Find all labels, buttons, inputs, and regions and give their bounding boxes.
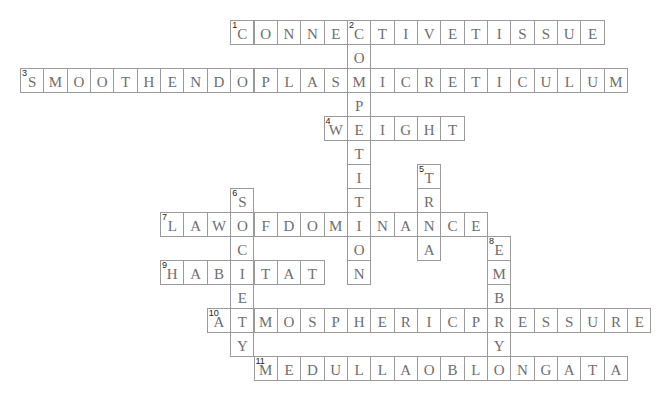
crossword-cell[interactable]: P	[324, 308, 348, 333]
crossword-cell[interactable]: 9H	[160, 260, 184, 285]
crossword-cell[interactable]: O	[347, 44, 371, 69]
crossword-cell[interactable]: 2C	[347, 20, 371, 45]
crossword-cell[interactable]: L	[557, 68, 581, 93]
crossword-cell[interactable]: A	[394, 356, 418, 381]
crossword-cell[interactable]: 3S	[20, 68, 44, 93]
crossword-cell[interactable]: 5T	[417, 164, 441, 189]
crossword-cell[interactable]: A	[277, 260, 301, 285]
crossword-cell[interactable]: E	[580, 20, 604, 45]
crossword-cell[interactable]: W	[207, 212, 231, 237]
crossword-cell[interactable]: V	[417, 20, 441, 45]
crossword-cell[interactable]: R	[417, 68, 441, 93]
crossword-cell[interactable]: B	[207, 260, 231, 285]
crossword-cell[interactable]: B	[487, 284, 511, 309]
crossword-cell[interactable]: 11M	[254, 356, 278, 381]
crossword-cell[interactable]: E	[324, 20, 348, 45]
crossword-cell[interactable]: N	[510, 356, 534, 381]
crossword-cell[interactable]: N	[277, 20, 301, 45]
crossword-cell[interactable]: P	[464, 308, 488, 333]
crossword-cell[interactable]: S	[534, 308, 558, 333]
crossword-cell[interactable]: I	[394, 20, 418, 45]
crossword-cell[interactable]: M	[43, 68, 67, 93]
crossword-cell[interactable]: N	[183, 68, 207, 93]
crossword-cell[interactable]: Y	[230, 332, 254, 357]
crossword-cell[interactable]: C	[394, 68, 418, 93]
crossword-cell[interactable]: O	[300, 212, 324, 237]
crossword-cell[interactable]: P	[254, 68, 278, 93]
crossword-cell[interactable]: T	[254, 260, 278, 285]
crossword-cell[interactable]: O	[230, 212, 254, 237]
crossword-cell[interactable]: A	[604, 356, 628, 381]
crossword-cell[interactable]: U	[534, 68, 558, 93]
crossword-cell[interactable]: N	[417, 212, 441, 237]
crossword-cell[interactable]: M	[347, 68, 371, 93]
crossword-cell[interactable]: I	[347, 212, 371, 237]
crossword-cell[interactable]: I	[487, 68, 511, 93]
crossword-cell[interactable]: T	[370, 20, 394, 45]
crossword-cell[interactable]: M	[604, 68, 628, 93]
crossword-cell[interactable]: N	[300, 20, 324, 45]
crossword-cell[interactable]: L	[370, 356, 394, 381]
crossword-cell[interactable]: U	[324, 356, 348, 381]
crossword-cell[interactable]: C	[510, 68, 534, 93]
crossword-cell[interactable]: T	[230, 308, 254, 333]
crossword-cell[interactable]: T	[464, 68, 488, 93]
crossword-cell[interactable]: U	[580, 308, 604, 333]
crossword-cell[interactable]: I	[347, 164, 371, 189]
crossword-cell[interactable]: I	[487, 20, 511, 45]
crossword-cell[interactable]: A	[183, 260, 207, 285]
crossword-cell[interactable]: T	[347, 188, 371, 213]
crossword-cell[interactable]: D	[207, 68, 231, 93]
crossword-cell[interactable]: S	[510, 20, 534, 45]
crossword-cell[interactable]: 6S	[230, 188, 254, 213]
crossword-cell[interactable]: O	[347, 236, 371, 261]
crossword-cell[interactable]: T	[580, 356, 604, 381]
crossword-cell[interactable]: S	[534, 20, 558, 45]
crossword-cell[interactable]: E	[510, 308, 534, 333]
crossword-cell[interactable]: O	[254, 20, 278, 45]
crossword-cell[interactable]: T	[347, 140, 371, 165]
crossword-cell[interactable]: S	[557, 308, 581, 333]
crossword-cell[interactable]: A	[557, 356, 581, 381]
crossword-cell[interactable]: 4W	[324, 116, 348, 141]
crossword-cell[interactable]: E	[347, 116, 371, 141]
crossword-cell[interactable]: T	[113, 68, 137, 93]
crossword-cell[interactable]: L	[347, 356, 371, 381]
crossword-cell[interactable]: R	[604, 308, 628, 333]
crossword-cell[interactable]: S	[324, 68, 348, 93]
crossword-cell[interactable]: D	[300, 356, 324, 381]
crossword-cell[interactable]: I	[417, 308, 441, 333]
crossword-cell[interactable]: L	[277, 68, 301, 93]
crossword-cell[interactable]: M	[487, 260, 511, 285]
crossword-cell[interactable]: E	[440, 20, 464, 45]
crossword-cell[interactable]: 10A	[207, 308, 231, 333]
crossword-cell[interactable]: O	[277, 308, 301, 333]
crossword-cell[interactable]: I	[370, 68, 394, 93]
crossword-cell[interactable]: O	[90, 68, 114, 93]
crossword-cell[interactable]: A	[300, 68, 324, 93]
crossword-cell[interactable]: D	[277, 212, 301, 237]
crossword-cell[interactable]: C	[440, 308, 464, 333]
crossword-cell[interactable]: T	[300, 260, 324, 285]
crossword-cell[interactable]: R	[417, 188, 441, 213]
crossword-cell[interactable]: N	[370, 212, 394, 237]
crossword-cell[interactable]: I	[230, 260, 254, 285]
crossword-cell[interactable]: L	[464, 356, 488, 381]
crossword-cell[interactable]: F	[254, 212, 278, 237]
crossword-cell[interactable]: O	[67, 68, 91, 93]
crossword-cell[interactable]: R	[487, 308, 511, 333]
crossword-cell[interactable]: E	[230, 284, 254, 309]
crossword-cell[interactable]: B	[440, 356, 464, 381]
crossword-cell[interactable]: O	[230, 68, 254, 93]
crossword-cell[interactable]: I	[370, 116, 394, 141]
crossword-cell[interactable]: S	[300, 308, 324, 333]
crossword-cell[interactable]: N	[347, 260, 371, 285]
crossword-cell[interactable]: T	[440, 116, 464, 141]
crossword-cell[interactable]: E	[440, 68, 464, 93]
crossword-cell[interactable]: A	[183, 212, 207, 237]
crossword-cell[interactable]: T	[464, 20, 488, 45]
crossword-cell[interactable]: E	[277, 356, 301, 381]
crossword-cell[interactable]: 1C	[230, 20, 254, 45]
crossword-cell[interactable]: R	[394, 308, 418, 333]
crossword-cell[interactable]: 8E	[487, 236, 511, 261]
